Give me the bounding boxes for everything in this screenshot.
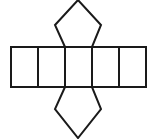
bottom-pentagon-face	[55, 87, 101, 138]
face-dividers	[38, 47, 119, 87]
rectangular-face-strip	[11, 47, 146, 87]
top-pentagon-face	[55, 0, 101, 47]
prism-net-diagram	[0, 0, 152, 139]
